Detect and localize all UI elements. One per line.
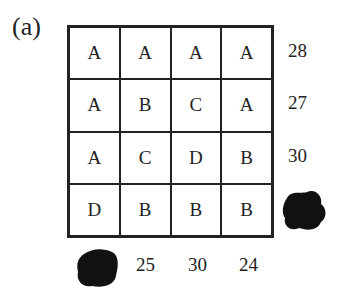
grid-cell: A (171, 27, 222, 79)
grid-cell: B (120, 79, 171, 131)
figure-label: (a) (12, 12, 41, 42)
grid-cell: B (221, 184, 272, 236)
grid-cell: C (171, 79, 222, 131)
row-sum: 28 (288, 40, 307, 62)
grid-cell: A (120, 27, 171, 79)
grid-cell: B (171, 184, 222, 236)
row-sum: 27 (288, 92, 307, 114)
col-sum: 25 (136, 254, 155, 276)
ink-blot-icon (281, 188, 329, 234)
grid-cell: C (120, 132, 171, 184)
grid-cell: B (120, 184, 171, 236)
grid-cell: A (69, 132, 120, 184)
grid-cell: D (69, 184, 120, 236)
grid-cell: A (221, 79, 272, 131)
col-sum: 24 (239, 254, 258, 276)
grid-cell: A (69, 27, 120, 79)
grid-cell: B (221, 132, 272, 184)
grid-cell: A (69, 79, 120, 131)
grid-cell: D (171, 132, 222, 184)
col-sum: 30 (188, 254, 207, 276)
row-sum: 30 (288, 145, 307, 167)
ink-blot-icon (74, 246, 122, 290)
grid-cell: A (221, 27, 272, 79)
letter-grid: A A A A A B C A A C D B D B B B (67, 25, 274, 238)
